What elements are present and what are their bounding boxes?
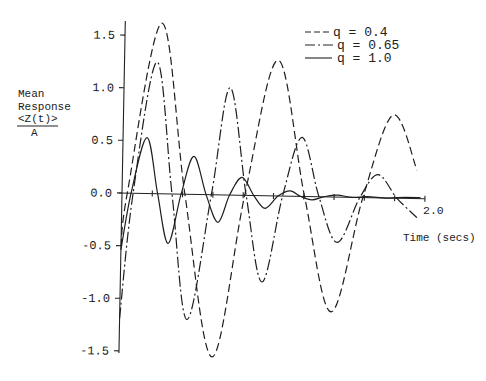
y-tick-labels: 1.5 1.0 0.5 0.0 -0.5 -1.0 -1.5 xyxy=(80,28,115,358)
y-tick-label: 0.0 xyxy=(90,186,112,200)
plot-area: 1.5 1.0 0.5 0.0 -0.5 -1.0 -1.5 xyxy=(80,20,428,364)
x-axis-title: Time (secs) xyxy=(403,232,476,244)
y-tick-label: 0.5 xyxy=(91,134,113,148)
y-label-line-mean: Mean xyxy=(18,88,44,100)
y-axis-line xyxy=(119,21,125,353)
y-tick-label: -1.5 xyxy=(80,344,109,359)
y-tick-label: -1.0 xyxy=(81,292,110,307)
y-label-line-response: Response xyxy=(18,101,71,113)
x-tick-label-end: 2.0 xyxy=(423,204,444,217)
y-tick-label: -0.5 xyxy=(82,239,111,254)
mean-response-chart: Mean Response <Z(t)> A 1.5 1.0 0.5 0.0 -… xyxy=(0,0,486,381)
y-tick-label: 1.5 xyxy=(93,29,115,43)
data-curves xyxy=(119,22,424,360)
chart-page: Mean Response <Z(t)> A 1.5 1.0 0.5 0.0 -… xyxy=(0,0,486,381)
curve-q-0-65 xyxy=(120,61,420,324)
curve-q-0-4 xyxy=(119,22,420,360)
legend: q = 0.4 q = 0.65 q = 1.0 xyxy=(305,25,399,66)
y-axis-label: Mean Response <Z(t)> A xyxy=(17,88,71,139)
legend-item-q-1-0: q = 1.0 xyxy=(305,51,392,66)
legend-label: q = 1.0 xyxy=(337,51,392,66)
y-tick-label: 1.0 xyxy=(92,81,114,95)
y-label-line-denominator: A xyxy=(31,127,38,139)
y-label-line-numerator: <Z(t)> xyxy=(18,113,58,125)
